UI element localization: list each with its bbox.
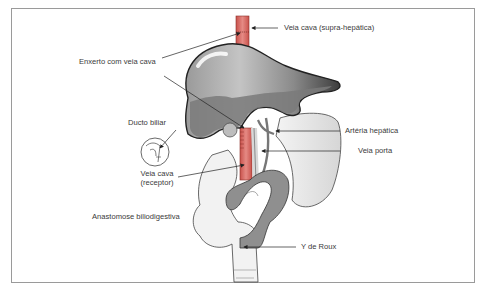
label-enxerto-veia-cava: Enxerto com veia cava xyxy=(79,58,156,67)
label-veia-porta: Veia porta xyxy=(358,147,392,156)
label-anastomose-biliodigestiva: Anastomose biliodigestiva xyxy=(92,213,180,222)
liver-transplant-illustration xyxy=(0,0,486,292)
label-veia-cava-receptor-line2: (receptor) xyxy=(136,179,178,188)
bile-duct-anastomosis xyxy=(223,123,237,137)
label-veia-cava-receptor: Veia cava (receptor) xyxy=(136,170,178,187)
label-veia-cava-supra: Veia cava (supra-hepática) xyxy=(284,24,374,33)
label-y-de-roux: Y de Roux xyxy=(301,243,336,252)
label-arteria-hepatica: Artéria hepática xyxy=(345,127,398,136)
vena-cava-receptor xyxy=(240,128,252,180)
hepatic-artery xyxy=(258,118,274,176)
portal-vein xyxy=(254,128,256,182)
label-ducto-biliar: Ducto biliar xyxy=(128,119,166,128)
